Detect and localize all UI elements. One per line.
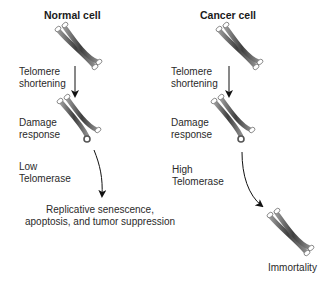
label-line: Damage: [171, 117, 212, 129]
chromosome-normal-intact: [54, 21, 103, 70]
label-line: Telomerase: [19, 173, 71, 185]
telomere-diagram: Normal cell Telomere shortening Damage r…: [0, 0, 331, 285]
label-line: shortening: [19, 78, 66, 90]
label-line: High: [172, 164, 224, 176]
chromosome-cancer-immortal: [266, 207, 315, 256]
label-line: Telomere: [171, 66, 218, 78]
cancer-cell-title: Cancer cell: [200, 9, 256, 21]
label-line: Damage: [19, 117, 60, 129]
cancer-high-telomerase-label: High Telomerase: [172, 164, 224, 188]
chromosome-normal-damaged: [56, 93, 102, 142]
normal-cell-title: Normal cell: [44, 9, 101, 21]
cancer-outcome-label: Immortality: [268, 262, 317, 274]
normal-low-telomerase-label: Low Telomerase: [19, 161, 71, 185]
label-line: response: [171, 129, 212, 141]
normal-damage-response-label: Damage response: [19, 117, 60, 141]
label-line: apoptosis, and tumor suppression: [20, 216, 180, 228]
label-line: response: [19, 129, 60, 141]
normal-telomere-shortening-label: Telomere shortening: [19, 66, 66, 90]
chromosome-cancer-damaged: [210, 93, 256, 142]
label-line: Telomerase: [172, 176, 224, 188]
normal-outcome-label: Replicative senescence, apoptosis, and t…: [20, 204, 180, 228]
cancer-damage-response-label: Damage response: [171, 117, 212, 141]
label-line: Immortality: [268, 262, 317, 274]
arrow-normal-2: [94, 150, 102, 196]
diagram-graphics: [0, 0, 331, 285]
chromosome-cancer-intact: [215, 21, 264, 70]
label-line: Low: [19, 161, 71, 173]
label-line: Telomere: [19, 66, 66, 78]
arrow-cancer-2: [242, 152, 262, 206]
label-line: shortening: [171, 78, 218, 90]
cancer-telomere-shortening-label: Telomere shortening: [171, 66, 218, 90]
label-line: Replicative senescence,: [20, 204, 180, 216]
